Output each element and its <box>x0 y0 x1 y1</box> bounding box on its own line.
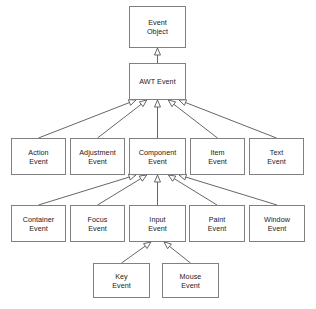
class-box-paint-event[interactable]: Paint Event <box>189 205 245 242</box>
class-box-component-event[interactable]: Component Event <box>129 138 186 175</box>
generalization-arrowhead-window-event <box>179 174 187 180</box>
generalization-arrowhead-key-event <box>144 242 151 249</box>
class-box-label: Item Event <box>206 148 229 166</box>
class-box-label: Event Object <box>145 18 170 36</box>
generalization-arrowhead-action-event <box>128 100 136 106</box>
inheritance-line-container-event <box>39 177 130 205</box>
generalization-arrowhead-awt-event <box>155 48 161 55</box>
class-box-label: Adjustment Event <box>77 148 117 166</box>
inheritance-line-adjustment-event <box>98 104 142 138</box>
generalization-arrowhead-input-event <box>155 175 161 182</box>
generalization-arrowhead-focus-event <box>139 175 147 181</box>
class-box-label: Container Event <box>21 215 57 233</box>
generalization-arrowhead-item-event <box>168 100 175 107</box>
class-box-key-event[interactable]: Key Event <box>93 263 150 298</box>
class-box-adjustment-event[interactable]: Adjustment Event <box>70 138 125 175</box>
inheritance-line-text-event <box>186 103 277 138</box>
inheritance-line-key-event <box>122 246 146 263</box>
class-box-event-object[interactable]: Event Object <box>129 6 186 48</box>
class-box-awt-event[interactable]: AWT Event <box>129 63 186 100</box>
class-box-label: Action Event <box>26 148 50 166</box>
class-box-focus-event[interactable]: Focus Event <box>70 205 125 242</box>
class-box-item-event[interactable]: Item Event <box>190 138 245 175</box>
class-box-input-event[interactable]: Input Event <box>129 205 186 242</box>
inheritance-line-mouse-event <box>169 246 190 263</box>
generalization-arrowhead-mouse-event <box>164 242 171 249</box>
class-box-label: Key Event <box>110 272 133 290</box>
class-box-text-event[interactable]: Text Event <box>249 138 304 175</box>
class-box-action-event[interactable]: Action Event <box>11 138 66 175</box>
inheritance-line-focus-event <box>98 179 141 205</box>
class-box-label: Window Event <box>262 215 292 233</box>
generalization-arrowhead-adjustment-event <box>139 100 146 107</box>
class-box-label: Mouse Event <box>178 272 204 290</box>
inheritance-line-paint-event <box>174 179 217 205</box>
inheritance-line-action-event <box>39 103 130 138</box>
class-box-label: Paint Event <box>206 215 229 233</box>
generalization-arrowhead-container-event <box>128 174 136 180</box>
uml-class-diagram: Event ObjectAWT EventAction EventAdjustm… <box>0 0 316 309</box>
class-box-label: AWT Event <box>137 77 177 86</box>
class-box-container-event[interactable]: Container Event <box>11 205 66 242</box>
class-box-window-event[interactable]: Window Event <box>249 205 305 242</box>
class-box-label: Input Event <box>146 215 169 233</box>
generalization-arrowhead-paint-event <box>168 175 176 181</box>
class-box-label: Component Event <box>137 148 179 166</box>
class-box-label: Text Event <box>265 148 288 166</box>
class-box-mouse-event[interactable]: Mouse Event <box>162 263 219 298</box>
inheritance-line-item-event <box>174 104 218 138</box>
class-box-label: Focus Event <box>86 215 110 233</box>
generalization-arrowhead-text-event <box>179 100 187 106</box>
generalization-arrowhead-component-event <box>155 100 161 107</box>
inheritance-line-window-event <box>186 177 277 205</box>
